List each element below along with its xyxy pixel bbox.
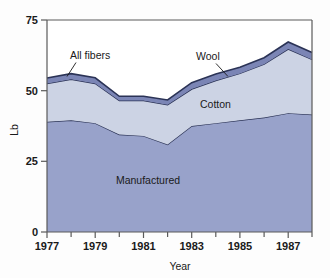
x-axis-ticks [47,232,312,238]
y-axis-ticks [41,20,47,232]
chart-figure: 0 25 50 75 Lb 1977 1979 1981 1983 [0,0,330,278]
y-axis-title: Lb [8,124,20,136]
x-tick-label-1985: 1985 [228,240,252,252]
x-tick-label-1987: 1987 [276,240,300,252]
y-axis-tick-labels: 0 25 50 75 [26,14,38,238]
y-tick-label-25: 25 [26,155,38,167]
x-tick-label-1981: 1981 [131,240,155,252]
annotation-manufactured: Manufactured [116,174,180,186]
x-tick-label-1983: 1983 [179,240,203,252]
y-tick-label-50: 50 [26,85,38,97]
x-tick-label-1979: 1979 [83,240,107,252]
fiber-consumption-area-chart: 0 25 50 75 Lb 1977 1979 1981 1983 [0,0,330,278]
x-axis-tick-labels: 1977 1979 1981 1983 1985 1987 [35,240,301,252]
x-tick-label-1977: 1977 [35,240,59,252]
annotation-wool: Wool [196,50,220,62]
annotation-all-fibers: All fibers [70,49,110,61]
y-tick-label-0: 0 [32,226,38,238]
x-axis-title: Year [169,260,191,272]
y-tick-label-75: 75 [26,14,38,26]
annotation-cotton: Cotton [200,98,231,110]
